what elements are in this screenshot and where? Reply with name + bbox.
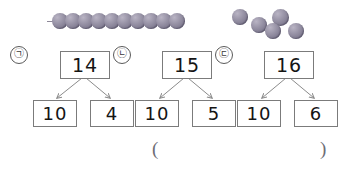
part-box-3-right[interactable]: 6 (294, 100, 338, 127)
answer-close-paren: ) (320, 138, 326, 160)
part-box-1-left[interactable]: 10 (33, 100, 77, 127)
bead (265, 23, 281, 39)
part-box-1-right[interactable]: 4 (90, 100, 134, 127)
group-marker-2: ㉡ (113, 46, 131, 64)
answer-open-paren: ( (152, 138, 158, 160)
bead (288, 23, 304, 39)
bead (169, 13, 185, 29)
whole-box-3[interactable]: 16 (264, 51, 314, 79)
part-box-3-left[interactable]: 10 (237, 100, 281, 127)
whole-box-2[interactable]: 15 (162, 51, 212, 79)
group-marker-3: ㉢ (215, 46, 233, 64)
whole-box-1[interactable]: 14 (60, 51, 110, 79)
group-marker-1: ㉠ (10, 46, 28, 64)
part-box-2-left[interactable]: 10 (135, 100, 179, 127)
answer-input[interactable] (162, 136, 318, 158)
bead (232, 9, 248, 25)
worksheet-page: ㉠ ㉡ ㉢ 14 10 4 15 10 5 16 10 6 ( ) (0, 0, 346, 174)
part-box-2-right[interactable]: 5 (192, 100, 236, 127)
